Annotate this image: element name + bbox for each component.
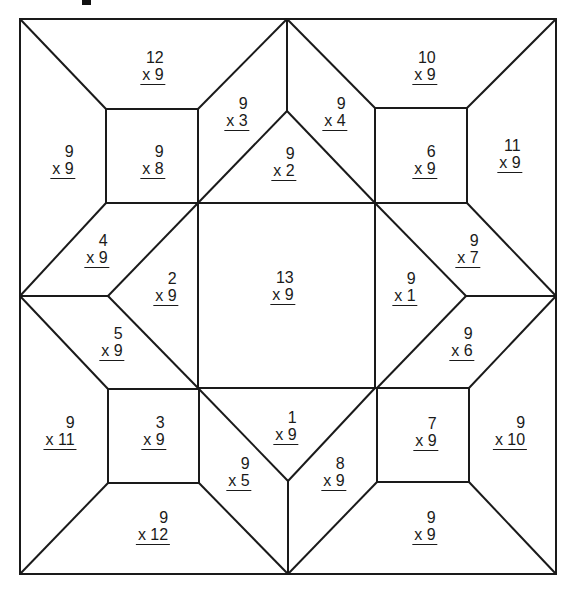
multiplicand: 2	[153, 270, 178, 287]
multiplicand: 8	[321, 455, 346, 472]
problem-bottom-right-square: 7x 9	[413, 415, 438, 451]
problem-top-right-square: 6x 9	[412, 143, 437, 179]
multiplicand: 9	[271, 145, 296, 162]
multiplicand: 9	[226, 455, 251, 472]
problem-right-upper-parallelogram: 9x 7	[455, 232, 480, 268]
multiplicand: 1	[273, 409, 298, 426]
multiplicand: 4	[84, 232, 109, 249]
multiplier: x 5	[226, 472, 251, 491]
problem-bottom-right-trapezoid: 9x 9	[412, 509, 437, 545]
multiplier: x 12	[136, 526, 170, 545]
problem-top-center-triangle: 9x 2	[271, 145, 296, 181]
problem-bottom-center-triangle: 1x 9	[273, 409, 298, 445]
problem-left-center-triangle: 2x 9	[153, 270, 178, 306]
multiplier: x 10	[493, 431, 527, 450]
multiplicand: 9	[224, 95, 249, 112]
problem-center-square: 13x 9	[270, 269, 295, 305]
problem-top-left-left-trapezoid: 9x 9	[50, 143, 75, 179]
problem-bottom-left-square: 3x 9	[141, 414, 166, 450]
problem-bottom-right-diamond-lower: 8x 9	[321, 455, 346, 491]
multiplicand: 9	[412, 509, 437, 526]
problem-bottom-right-right-trapezoid: 9x 10	[493, 414, 527, 450]
multiplicand: 5	[99, 325, 124, 342]
multiplicand: 9	[50, 143, 75, 160]
problem-top-left-square: 9x 8	[140, 143, 165, 179]
problem-bottom-left-left-trapezoid: 9x 11	[43, 414, 76, 450]
problem-top-left-diamond-upper: 9x 3	[224, 95, 249, 131]
multiplier: x 2	[271, 162, 296, 181]
multiplier: x 9	[84, 249, 109, 268]
multiplicand: 9	[392, 270, 417, 287]
multiplicand: 9	[140, 143, 165, 160]
multiplier: x 9	[412, 160, 437, 179]
problem-right-lower-parallelogram: 9x 6	[449, 325, 474, 361]
problem-top-right-trapezoid: 10x 9	[412, 49, 437, 85]
multiplier: x 9	[412, 526, 437, 545]
multiplier: x 7	[455, 249, 480, 268]
multiplicand: 9	[43, 414, 76, 431]
multiplier: x 9	[270, 286, 295, 305]
multiplier: x 9	[99, 342, 124, 361]
multiplicand: 9	[136, 509, 170, 526]
multiplier: x 9	[141, 431, 166, 450]
multiplicand: 10	[412, 49, 437, 66]
multiplier: x 9	[140, 66, 165, 85]
problem-top-left-trapezoid: 12x 9	[140, 49, 165, 85]
multiplier: x 9	[497, 154, 522, 173]
quilt-worksheet: 12x 99x 99x 89x 39x 29x 410x 96x 911x 94…	[0, 0, 577, 591]
problem-left-upper-parallelogram: 4x 9	[84, 232, 109, 268]
multiplier: x 9	[153, 287, 178, 306]
multiplier: x 1	[392, 287, 417, 306]
multiplicand: 3	[141, 414, 166, 431]
multiplicand: 7	[413, 415, 438, 432]
multiplier: x 6	[449, 342, 474, 361]
multiplier: x 9	[413, 432, 438, 451]
multiplicand: 9	[449, 325, 474, 342]
multiplier: x 11	[43, 431, 76, 450]
multiplier: x 9	[412, 66, 437, 85]
multiplicand: 12	[140, 49, 165, 66]
multiplier: x 9	[273, 426, 298, 445]
multiplicand: 13	[270, 269, 295, 286]
multiplicand: 11	[497, 137, 522, 154]
multiplier: x 9	[50, 160, 75, 179]
multiplier: x 3	[224, 112, 249, 131]
problem-top-right-right-trapezoid: 11x 9	[497, 137, 522, 173]
problem-right-center-triangle: 9x 1	[392, 270, 417, 306]
problem-left-lower-parallelogram: 5x 9	[99, 325, 124, 361]
problem-top-right-diamond-upper: 9x 4	[322, 95, 347, 131]
multiplicand: 6	[412, 143, 437, 160]
multiplicand: 9	[493, 414, 527, 431]
multiplier: x 9	[321, 472, 346, 491]
multiplicand: 9	[455, 232, 480, 249]
problem-bottom-left-diamond-lower: 9x 5	[226, 455, 251, 491]
multiplier: x 4	[322, 112, 347, 131]
multiplicand: 9	[322, 95, 347, 112]
multiplier: x 8	[140, 160, 165, 179]
problem-bottom-left-trapezoid: 9x 12	[136, 509, 170, 545]
